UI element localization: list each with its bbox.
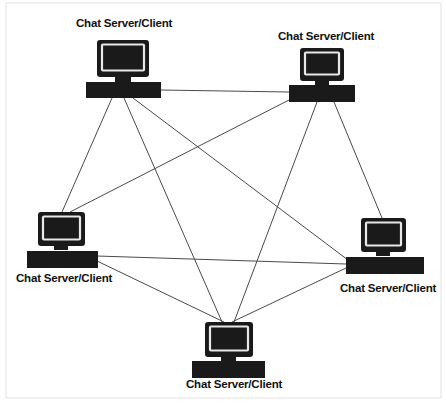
network-connection-line [133,98,348,260]
keyboard-base [346,257,424,274]
computer-nodes-group: Chat Server/ClientChat Server/ClientChat… [16,17,436,390]
monitor-stand [54,246,68,250]
monitor-stand [221,357,236,361]
network-topology-svg: Chat Server/ClientChat Server/ClientChat… [0,0,446,404]
network-diagram-canvas: Chat Server/ClientChat Server/ClientChat… [0,0,446,404]
node-label: Chat Server/Client [76,17,172,29]
node-label: Chat Server/Client [16,272,112,284]
computer-node[interactable]: Chat Server/Client [278,30,374,102]
network-connection-line [232,268,346,322]
connection-edges-group [62,90,382,322]
node-label: Chat Server/Client [340,282,436,294]
computer-node[interactable]: Chat Server/Client [186,322,282,390]
keyboard-base [192,361,265,378]
node-label: Chat Server/Client [186,378,282,390]
monitor-stand [376,252,390,256]
keyboard-base [27,251,98,268]
computer-node[interactable]: Chat Server/Client [76,17,172,98]
computer-node[interactable]: Chat Server/Client [340,218,436,294]
network-connection-line [334,102,382,218]
keyboard-base [86,82,161,98]
network-connection-line [97,256,346,264]
network-connection-line [124,98,222,322]
monitor-stand [315,81,329,85]
keyboard-base [289,85,355,102]
network-connection-line [234,102,317,322]
computer-node[interactable]: Chat Server/Client [16,212,112,284]
network-connection-line [70,100,289,212]
network-connection-line [161,90,289,92]
node-label: Chat Server/Client [278,30,374,42]
monitor-stand [115,77,131,82]
network-connection-line [97,261,224,322]
